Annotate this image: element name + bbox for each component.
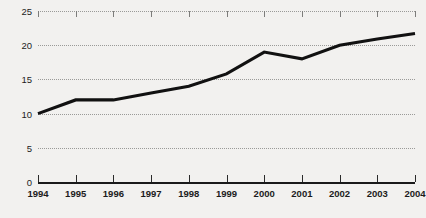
x-tick-label-2002: 2002	[329, 188, 350, 199]
x-tick-label-2003: 2003	[367, 188, 388, 199]
x-tick-label-2001: 2001	[291, 188, 312, 199]
x-axis-labels: 1994199519961997199819992000200120022003…	[38, 188, 415, 204]
x-tick-label-2004: 2004	[404, 188, 425, 199]
x-tick-top-2004	[415, 11, 416, 17]
data-line-series-1	[38, 34, 415, 114]
y-tick-label-15: 15	[21, 74, 32, 85]
x-tick-label-1998: 1998	[178, 188, 199, 199]
gridline-0	[38, 182, 415, 184]
x-tick-label-2000: 2000	[254, 188, 275, 199]
x-tick-label-1999: 1999	[216, 188, 237, 199]
x-tick-label-1995: 1995	[65, 188, 86, 199]
x-tick-label-1997: 1997	[141, 188, 162, 199]
data-series-svg	[38, 11, 415, 182]
plot-area	[38, 11, 415, 182]
y-tick-label-25: 25	[21, 6, 32, 17]
y-tick-label-20: 20	[21, 40, 32, 51]
y-tick-label-10: 10	[21, 108, 32, 119]
y-tick-label-0: 0	[27, 177, 32, 188]
x-tick-label-1996: 1996	[103, 188, 124, 199]
y-axis-labels: 0510152025	[0, 11, 32, 182]
y-tick-label-5: 5	[27, 142, 32, 153]
x-tick-label-1994: 1994	[27, 188, 48, 199]
x-tick-2004	[415, 175, 416, 182]
